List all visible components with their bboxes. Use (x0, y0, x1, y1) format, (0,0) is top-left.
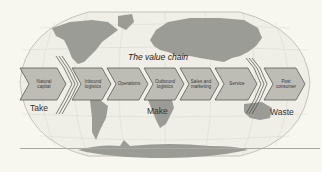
stage-outbound-logistics: Outboundlogistics (151, 68, 179, 100)
page-divider (20, 148, 320, 149)
stage-inbound-logistics: Inboundlogistics (80, 68, 106, 100)
stage-post-consumer: Postconsumer (271, 68, 301, 100)
stage-label-line2: capital (37, 84, 52, 89)
diagram-title: The value chain (128, 52, 188, 62)
stage-service: Service (222, 68, 252, 100)
stage-natural-capital: Naturalcapital (28, 68, 60, 100)
stage-label-line2: logistics (155, 84, 175, 89)
stage-sales-marketing: Sales andmarketing (187, 68, 215, 100)
stage-label-line1: Operations (118, 81, 140, 86)
stage-operations: Operations (114, 68, 144, 100)
phase-waste: Waste (270, 107, 294, 117)
stage-label-line2: consumer (276, 84, 296, 89)
stage-label-line1: Service (229, 81, 244, 86)
phase-make: Make (147, 106, 168, 116)
stage-label-line2: marketing (191, 84, 211, 89)
phase-take: Take (30, 103, 48, 113)
stage-label-line2: logistics (85, 84, 102, 89)
